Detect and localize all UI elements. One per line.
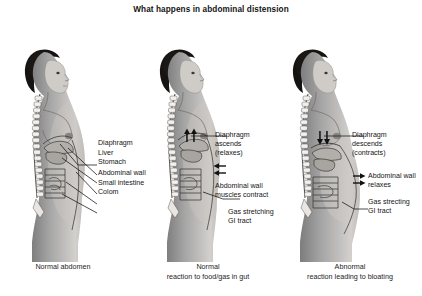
label-gas-strecting-line2: GI tract — [368, 207, 391, 216]
caption-2-line-2: reaction to food/gas in gut — [133, 272, 283, 282]
caption-normal-reaction: Normal reaction to food/gas in gut — [133, 262, 283, 281]
caption-3-line-1: Abnormal — [278, 262, 422, 272]
label-diaphragm: Diaphragm — [98, 139, 133, 148]
caption-abnormal-reaction: Abnormal reaction leading to bloating — [278, 262, 422, 281]
label-diaphragm-descends-line3: (contracts) — [352, 149, 386, 158]
panel-normal-abdomen: Diaphragm Liver Stomach Abdominal wall S… — [0, 22, 150, 262]
label-diaphragm-ascends-line3: (relaxes) — [215, 149, 243, 158]
label-gas-stretching-line2: GI tract — [228, 217, 251, 226]
abdominal-distension-figure: What happens in abdominal distension — [0, 0, 422, 296]
eye — [191, 72, 194, 74]
panel-normal-reaction: Diaphragm ascends (relaxes) Abdominal wa… — [135, 22, 285, 262]
label-diaphragm-descends-line2: descends — [352, 140, 382, 149]
label-abdominal-wall-contract-line1: Abdominal wall — [215, 182, 263, 191]
caption-1-line-1: Normal abdomen — [8, 262, 118, 272]
label-colom: Colom — [98, 188, 119, 197]
label-diaphragm-descends-line1: Diaphragm — [352, 131, 387, 140]
label-liver: Liver — [98, 149, 113, 158]
caption-2-line-1: Normal — [133, 262, 283, 272]
panel-2-illustration — [135, 22, 285, 262]
label-abdominal-wall-relaxes-line1: Abdominal wall — [368, 172, 416, 181]
figure-title: What happens in abdominal distension — [0, 5, 422, 14]
label-abdominal-wall-contract-line2: muscles contract — [215, 191, 268, 200]
label-stomach: Stomach — [98, 158, 126, 167]
eye — [56, 72, 59, 74]
label-diaphragm-ascends-line2: ascends — [215, 140, 241, 149]
label-gas-strecting-line1: Gas strecting — [368, 198, 410, 207]
caption-normal-abdomen: Normal abdomen — [8, 262, 118, 272]
label-diaphragm-ascends-line1: Diaphragm — [215, 131, 250, 140]
label-gas-stretching-line1: Gas stretching — [228, 208, 274, 217]
label-abdominal-wall-relaxes-line2: relaxes — [368, 181, 391, 190]
caption-3-line-2: reaction leading to bloating — [278, 272, 422, 282]
panel-abnormal-reaction: Diaphragm descends (contracts) Abdominal… — [268, 22, 422, 262]
eye — [324, 72, 327, 74]
panel-3-illustration — [268, 22, 422, 262]
